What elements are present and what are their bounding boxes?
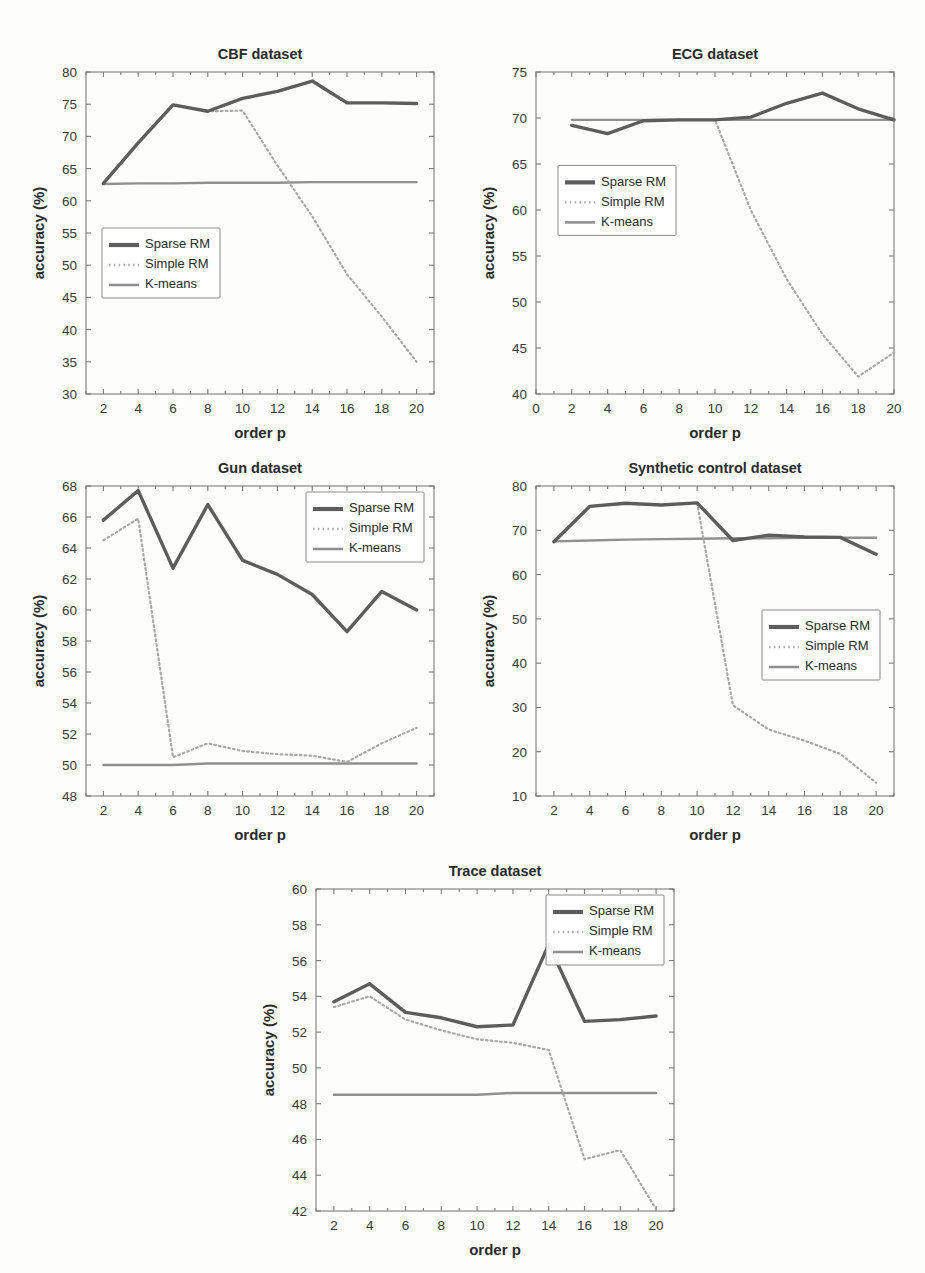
y-tick-label: 40 xyxy=(62,323,77,338)
y-tick-label: 70 xyxy=(512,111,527,126)
x-tick-label: 12 xyxy=(270,401,285,416)
y-tick-label: 10 xyxy=(512,789,527,804)
chart-legend: Sparse RMSimple RMK-means xyxy=(546,895,664,965)
x-tick-label: 20 xyxy=(886,401,901,416)
series-line-k-means xyxy=(334,1093,656,1095)
legend-label-sparse-rm: Sparse RM xyxy=(589,903,654,918)
y-tick-label: 58 xyxy=(62,634,77,649)
legend-label-simple-rm: Simple RM xyxy=(589,923,653,938)
chart-title: CBF dataset xyxy=(218,46,303,62)
x-tick-label: 14 xyxy=(779,401,795,416)
y-tick-label: 54 xyxy=(292,989,308,1004)
legend-label-k-means: K-means xyxy=(145,276,198,291)
y-tick-label: 62 xyxy=(62,572,77,587)
x-tick-label: 18 xyxy=(833,803,848,818)
y-axis-label: accuracy (%) xyxy=(30,187,47,280)
x-tick-label: 6 xyxy=(169,803,177,818)
x-tick-label: 2 xyxy=(550,803,558,818)
x-tick-label: 8 xyxy=(658,803,666,818)
y-tick-label: 44 xyxy=(292,1168,308,1183)
x-tick-label: 4 xyxy=(604,401,612,416)
chart-title: ECG dataset xyxy=(672,46,758,62)
y-tick-label: 20 xyxy=(512,745,527,760)
x-tick-label: 18 xyxy=(613,1218,628,1233)
y-tick-label: 64 xyxy=(62,541,78,556)
y-tick-label: 50 xyxy=(512,295,527,310)
x-tick-label: 6 xyxy=(622,803,630,818)
series-line-simple-rm xyxy=(572,120,894,377)
y-axis-label: accuracy (%) xyxy=(260,1004,277,1097)
x-tick-label: 12 xyxy=(725,803,740,818)
legend-label-sparse-rm: Sparse RM xyxy=(601,174,666,189)
series-line-sparse-rm xyxy=(572,93,894,133)
y-tick-label: 54 xyxy=(62,696,78,711)
x-tick-label: 20 xyxy=(649,1218,664,1233)
chart-svg: Trace dataset246810121416182042444648505… xyxy=(250,855,690,1267)
x-tick-label: 2 xyxy=(100,803,108,818)
y-tick-label: 80 xyxy=(512,479,527,494)
x-tick-label: 18 xyxy=(851,401,866,416)
legend-label-simple-rm: Simple RM xyxy=(805,638,869,653)
legend-label-k-means: K-means xyxy=(589,943,642,958)
chart-legend: Sparse RMSimple RMK-means xyxy=(558,165,676,235)
y-tick-label: 52 xyxy=(292,1025,307,1040)
x-axis-label: order p xyxy=(234,826,286,843)
x-tick-label: 16 xyxy=(339,401,354,416)
legend-label-sparse-rm: Sparse RM xyxy=(805,618,870,633)
chart-panel-cbf: CBF dataset24681012141618203035404550556… xyxy=(20,38,450,450)
chart-title: Synthetic control dataset xyxy=(628,460,801,476)
chart-svg: CBF dataset24681012141618203035404550556… xyxy=(20,38,450,450)
chart-legend: Sparse RMSimple RMK-means xyxy=(102,228,220,298)
x-tick-label: 14 xyxy=(761,803,777,818)
chart-title: Trace dataset xyxy=(449,863,542,879)
x-tick-label: 16 xyxy=(577,1218,592,1233)
y-tick-label: 45 xyxy=(62,290,77,305)
x-tick-label: 16 xyxy=(339,803,354,818)
x-tick-label: 8 xyxy=(204,401,212,416)
x-tick-label: 20 xyxy=(409,401,424,416)
y-tick-label: 50 xyxy=(62,258,77,273)
y-axis-label: accuracy (%) xyxy=(480,595,497,688)
x-tick-label: 14 xyxy=(305,401,321,416)
chart-legend: Sparse RMSimple RMK-means xyxy=(762,610,880,680)
x-tick-label: 10 xyxy=(690,803,705,818)
x-tick-label: 16 xyxy=(797,803,812,818)
legend-label-simple-rm: Simple RM xyxy=(145,256,209,271)
y-tick-label: 58 xyxy=(292,918,307,933)
y-tick-label: 50 xyxy=(512,612,527,627)
y-tick-label: 75 xyxy=(62,97,77,112)
x-tick-label: 8 xyxy=(438,1218,446,1233)
y-tick-label: 48 xyxy=(62,789,77,804)
x-tick-label: 10 xyxy=(707,401,722,416)
x-tick-label: 4 xyxy=(366,1218,374,1233)
y-tick-label: 40 xyxy=(512,656,527,671)
y-tick-label: 70 xyxy=(512,523,527,538)
y-tick-label: 80 xyxy=(62,65,77,80)
y-tick-label: 50 xyxy=(62,758,77,773)
x-tick-label: 12 xyxy=(505,1218,520,1233)
x-tick-label: 10 xyxy=(235,803,250,818)
chart-panel-synthetic: Synthetic control dataset246810121416182… xyxy=(470,452,910,852)
y-tick-label: 30 xyxy=(512,700,527,715)
x-tick-label: 20 xyxy=(869,803,884,818)
y-tick-label: 65 xyxy=(62,162,77,177)
chart-panel-gun: Gun dataset24681012141618204850525456586… xyxy=(20,452,450,852)
y-tick-label: 48 xyxy=(292,1097,307,1112)
x-tick-label: 8 xyxy=(204,803,212,818)
series-line-simple-rm xyxy=(334,996,656,1209)
y-tick-label: 66 xyxy=(62,510,77,525)
x-tick-label: 2 xyxy=(330,1218,338,1233)
y-tick-label: 68 xyxy=(62,479,77,494)
x-tick-label: 8 xyxy=(675,401,683,416)
x-tick-label: 2 xyxy=(568,401,576,416)
y-tick-label: 35 xyxy=(62,355,77,370)
x-tick-label: 18 xyxy=(374,803,389,818)
x-tick-label: 16 xyxy=(815,401,830,416)
x-tick-label: 12 xyxy=(270,803,285,818)
chart-legend: Sparse RMSimple RMK-means xyxy=(306,492,424,562)
y-tick-label: 60 xyxy=(62,194,77,209)
x-tick-label: 10 xyxy=(470,1218,485,1233)
y-tick-label: 55 xyxy=(512,249,527,264)
y-tick-label: 40 xyxy=(512,387,527,402)
y-tick-label: 60 xyxy=(512,203,527,218)
